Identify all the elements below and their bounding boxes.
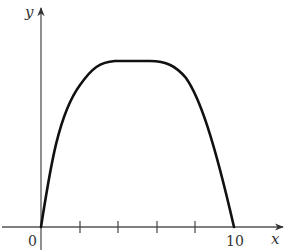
data-curve xyxy=(41,61,234,227)
y-axis-label: y xyxy=(24,3,34,21)
origin-label: 0 xyxy=(28,233,37,249)
x-end-label: 10 xyxy=(226,233,244,249)
chart: y x 0 10 xyxy=(0,0,287,250)
x-axis-label: x xyxy=(271,230,280,248)
